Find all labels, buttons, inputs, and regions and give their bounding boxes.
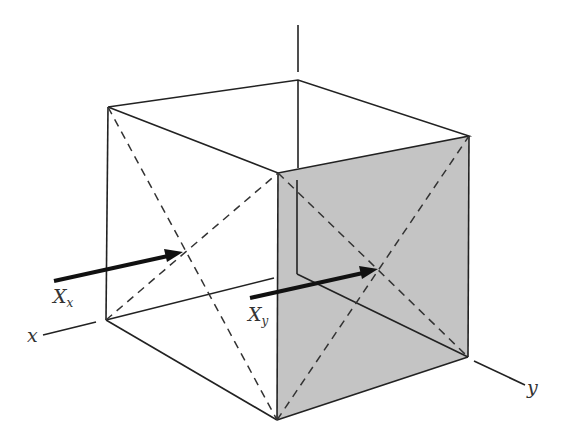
x-axis-label: x <box>27 326 38 345</box>
arrow-y-label: Xy <box>248 305 268 327</box>
cube-diagram: Xx Xy x y <box>0 0 571 444</box>
x-axis-line <box>43 322 96 335</box>
y-axis-line <box>474 361 525 385</box>
arrow-x <box>54 249 183 281</box>
cube-drawing <box>0 0 571 444</box>
y-axis-label: y <box>527 378 538 397</box>
arrow-x-label: Xx <box>53 287 73 309</box>
